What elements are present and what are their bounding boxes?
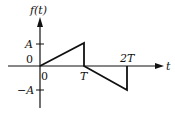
y-axis-arrow-icon: [37, 17, 43, 27]
tick-label-negA: −A: [17, 84, 34, 97]
tick-label-A: A: [24, 38, 33, 51]
tick-label-T: T: [80, 70, 89, 83]
y-axis-label: f(t): [29, 4, 47, 17]
x-axis-arrow-icon: [155, 63, 164, 69]
tick-label-2T: 2T: [119, 52, 136, 65]
origin-x-label: 0: [41, 70, 48, 83]
origin-y-label: 0: [26, 53, 33, 66]
waveform-diagram: f(t) t A −A 0 0 T 2T: [0, 0, 175, 114]
x-axis-label: t: [166, 60, 171, 73]
